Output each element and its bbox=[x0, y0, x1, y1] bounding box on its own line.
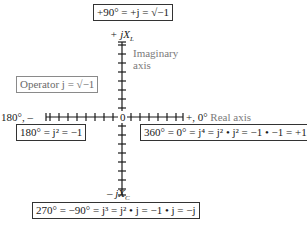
equation-180: 180° = j² = −1 bbox=[20, 126, 82, 138]
equation-270: 270° = −90° = j³ = j² • j = −1 • j = −j bbox=[36, 204, 196, 216]
imaginary-label-line1: Imaginary bbox=[133, 47, 178, 59]
reactance-var: X bbox=[123, 28, 130, 40]
plus-90-degree-box: +90° = +j = √−1 bbox=[93, 4, 173, 21]
box-180-degrees: 180° = j² = −1 bbox=[16, 124, 86, 141]
capacitive-subscript: C bbox=[125, 194, 130, 202]
imaginary-axis-label: Imaginary axis bbox=[133, 47, 178, 71]
plus-90-equation: +90° = +j = √−1 bbox=[97, 6, 169, 18]
equation-360: 360° = 0° = j⁴ = j² • j² = −1 • −1 = +1 bbox=[144, 126, 307, 138]
positive-real-label: +, 0° Real axis bbox=[186, 111, 251, 123]
minus-j-prefix: – j bbox=[107, 187, 118, 199]
inductive-subscript: L bbox=[130, 35, 134, 43]
plus-j-prefix: + j bbox=[110, 28, 123, 40]
operator-j-box: Operator j = √−1 bbox=[16, 76, 98, 93]
neg-real-text: 180°, – bbox=[1, 111, 33, 123]
axes-graphic bbox=[0, 0, 307, 227]
negative-imaginary-axis-label: – jXC bbox=[107, 187, 130, 199]
origin-label: 0 bbox=[119, 111, 127, 123]
real-axis-label: Real axis bbox=[210, 111, 251, 123]
box-360-degrees: 360° = 0° = j⁴ = j² • j² = −1 • −1 = +1 bbox=[140, 124, 307, 141]
pos-real-text: +, 0° bbox=[186, 111, 208, 123]
box-270-degrees: 270° = −90° = j³ = j² • j = −1 • j = −j bbox=[32, 202, 200, 219]
positive-imaginary-axis-label: + jXL bbox=[110, 28, 134, 40]
negative-real-label: 180°, – bbox=[1, 111, 33, 123]
operator-j-text: Operator j = √−1 bbox=[20, 78, 94, 90]
imaginary-label-line2: axis bbox=[133, 59, 178, 71]
origin-text: 0 bbox=[120, 111, 126, 123]
